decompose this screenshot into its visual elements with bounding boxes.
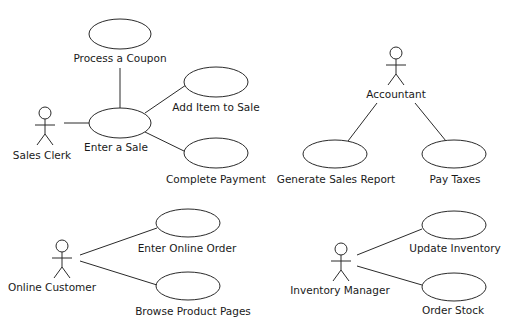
- stick-figure-icon: [35, 107, 55, 145]
- actor-label: Online Customer: [8, 281, 97, 293]
- use-case-label: Order Stock: [422, 304, 485, 316]
- use-case-order-stock[interactable]: Order Stock: [422, 273, 486, 316]
- actor-sales-clerk[interactable]: Sales Clerk: [13, 107, 72, 161]
- use-case-update-inventory[interactable]: Update Inventory: [409, 211, 501, 254]
- actor-inventory-manager[interactable]: Inventory Manager: [290, 243, 390, 296]
- use-case-ellipse[interactable]: [303, 140, 367, 168]
- use-case-browse-pages[interactable]: Browse Product Pages: [135, 272, 251, 317]
- use-case-ellipse[interactable]: [422, 273, 486, 301]
- use-case-label: Add Item to Sale: [172, 101, 259, 113]
- use-case-enter-online-order[interactable]: Enter Online Order: [138, 209, 237, 254]
- use-case-add-item[interactable]: Add Item to Sale: [172, 67, 259, 113]
- use-case-label: Process a Coupon: [73, 52, 166, 64]
- association-line-accountant-pay-taxes: [415, 103, 446, 141]
- association-line-enter-sale-complete-payment: [145, 132, 186, 152]
- use-case-pay-taxes[interactable]: Pay Taxes: [422, 140, 486, 185]
- use-case-enter-sale[interactable]: Enter a Sale: [84, 108, 151, 153]
- use-case-label: Enter a Sale: [84, 141, 148, 153]
- use-case-diagram: Process a CouponEnter a SaleAdd Item to …: [0, 0, 507, 330]
- use-case-label: Generate Sales Report: [277, 173, 395, 185]
- association-line-accountant-generate-report: [348, 103, 377, 141]
- actor-label: Accountant: [366, 88, 426, 100]
- use-case-ellipse[interactable]: [156, 209, 220, 237]
- use-case-label: Pay Taxes: [430, 173, 481, 185]
- actor-label: Sales Clerk: [13, 149, 72, 161]
- stick-figure-icon: [331, 243, 351, 281]
- use-case-ellipse[interactable]: [184, 138, 248, 168]
- actor-label: Inventory Manager: [290, 284, 390, 296]
- use-case-label: Browse Product Pages: [135, 305, 251, 317]
- stick-figure-icon: [386, 47, 406, 85]
- use-cases: Process a CouponEnter a SaleAdd Item to …: [73, 19, 500, 317]
- use-case-ellipse[interactable]: [184, 67, 248, 97]
- use-case-label: Complete Payment: [166, 173, 266, 185]
- actor-accountant[interactable]: Accountant: [366, 47, 426, 100]
- use-case-ellipse[interactable]: [156, 272, 220, 300]
- use-case-label: Enter Online Order: [138, 242, 237, 254]
- stick-figure-icon: [52, 240, 72, 278]
- use-case-generate-report[interactable]: Generate Sales Report: [277, 140, 395, 185]
- use-case-label: Update Inventory: [409, 242, 501, 254]
- use-case-complete-payment[interactable]: Complete Payment: [166, 138, 266, 185]
- use-case-process-coupon[interactable]: Process a Coupon: [73, 19, 166, 64]
- use-case-ellipse[interactable]: [89, 19, 151, 49]
- use-case-ellipse[interactable]: [422, 140, 486, 168]
- association-line-inventory-manager-order-stock: [357, 266, 422, 285]
- actor-online-customer[interactable]: Online Customer: [8, 240, 97, 293]
- use-case-ellipse[interactable]: [422, 211, 486, 239]
- use-case-ellipse[interactable]: [89, 108, 151, 138]
